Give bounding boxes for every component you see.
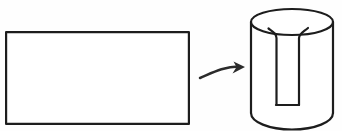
flat-sheet-rectangle-group	[6, 32, 189, 124]
transformation-arrow-shaft	[200, 67, 239, 79]
cylinder-body-silhouette	[251, 22, 333, 128]
flat-sheet-rectangle	[6, 32, 189, 124]
transformation-arrow-group	[200, 62, 245, 79]
cylinder-top-rim-ellipse	[251, 9, 333, 35]
slotted-cylinder-group	[251, 9, 333, 130]
diagram-svg	[0, 0, 342, 131]
figure-canvas: A plain rectangle on the left, a curved …	[0, 0, 342, 131]
